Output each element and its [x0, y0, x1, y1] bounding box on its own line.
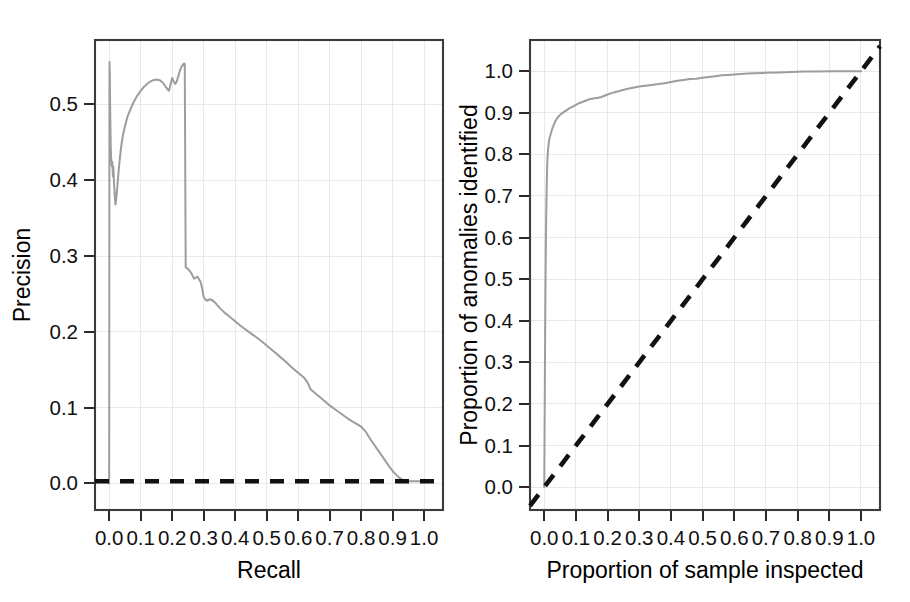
pr-plot-border	[95, 40, 443, 510]
x-axis-tick-label: 0.8	[783, 526, 812, 549]
y-axis-tick-label: 0.5	[50, 92, 79, 115]
cd-yaxis-title: Proportion of anomalies identified	[456, 104, 482, 445]
y-axis-tick-label: 0.8	[485, 142, 514, 165]
x-axis-tick-label: 0.3	[189, 526, 218, 549]
y-axis-tick-label: 0.5	[485, 267, 514, 290]
y-axis-tick-label: 0.2	[485, 392, 514, 415]
x-axis-tick-label: 0.3	[625, 526, 654, 549]
x-axis-tick-label: 0.1	[126, 526, 155, 549]
reference-line	[530, 46, 880, 506]
x-axis-tick-label: 0.7	[752, 526, 781, 549]
pr-yticklabels-group: 0.00.10.20.30.40.5	[50, 92, 79, 494]
y-axis-tick-label: 0.3	[50, 244, 79, 267]
cd-xticklabels-group: 0.00.10.20.30.40.50.60.70.80.91.0	[530, 526, 875, 549]
y-axis-tick-label: 0.0	[50, 471, 79, 494]
y-axis-tick-label: 0.2	[50, 320, 79, 343]
x-axis-tick-label: 0.2	[593, 526, 622, 549]
x-axis-tick-label: 0.4	[221, 526, 250, 549]
x-axis-tick-label: 0.8	[347, 526, 376, 549]
x-axis-tick-label: 1.0	[410, 526, 439, 549]
x-axis-tick-label: 0.6	[284, 526, 313, 549]
pr-series-group	[95, 62, 443, 483]
x-axis-tick-label: 0.2	[158, 526, 187, 549]
x-axis-tick-label: 0.0	[95, 526, 124, 549]
pr-xaxis-title: Recall	[237, 557, 301, 583]
x-axis-tick-label: 0.6	[720, 526, 749, 549]
y-axis-tick-label: 1.0	[485, 59, 514, 82]
cumulative-detection-panel: 0.00.10.20.30.40.50.60.70.80.91.0 0.00.1…	[455, 0, 910, 602]
x-axis-tick-label: 0.9	[378, 526, 407, 549]
x-axis-tick-label: 0.9	[815, 526, 844, 549]
x-axis-tick-label: 0.7	[315, 526, 344, 549]
cd-yticklabels-group: 0.00.10.20.30.40.50.60.70.80.91.0	[485, 59, 514, 498]
y-axis-tick-label: 0.6	[485, 226, 514, 249]
x-axis-tick-label: 1.0	[847, 526, 876, 549]
pr-grid-group	[95, 40, 443, 510]
y-axis-tick-label: 0.7	[485, 184, 514, 207]
y-axis-tick-label: 0.9	[485, 101, 514, 124]
x-axis-tick-label: 0.5	[688, 526, 717, 549]
precision-recall-panel: 0.00.10.20.30.40.50.60.70.80.91.0 0.00.1…	[0, 0, 455, 602]
pr-xticklabels-group: 0.00.10.20.30.40.50.60.70.80.91.0	[95, 526, 438, 549]
cumulative-detection-chart: 0.00.10.20.30.40.50.60.70.80.91.0 0.00.1…	[455, 0, 910, 602]
y-axis-tick-label: 0.1	[485, 434, 514, 457]
x-axis-tick-label: 0.0	[530, 526, 559, 549]
x-axis-tick-label: 0.4	[657, 526, 686, 549]
y-axis-tick-label: 0.4	[485, 309, 514, 332]
x-axis-tick-label: 0.5	[252, 526, 281, 549]
cd-xaxis-title: Proportion of sample inspected	[546, 557, 863, 583]
y-axis-tick-label: 0.1	[50, 396, 79, 419]
pr-ticks-group	[84, 104, 424, 521]
precision-recall-chart: 0.00.10.20.30.40.50.60.70.80.91.0 0.00.1…	[0, 0, 455, 602]
x-axis-tick-label: 0.1	[562, 526, 591, 549]
y-axis-tick-label: 0.0	[485, 475, 514, 498]
cd-series-group	[530, 46, 880, 506]
figure-container: 0.00.10.20.30.40.50.60.70.80.91.0 0.00.1…	[0, 0, 910, 602]
y-axis-tick-label: 0.4	[50, 168, 79, 191]
pr-yaxis-title: Precision	[9, 228, 35, 323]
y-axis-tick-label: 0.3	[485, 350, 514, 373]
